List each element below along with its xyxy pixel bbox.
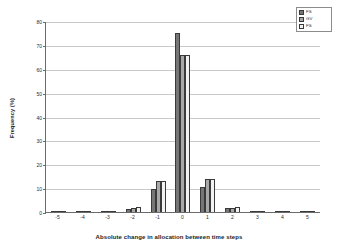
x-axis-tick-label: 5 bbox=[295, 215, 320, 220]
y-axis-tick-label: 50 bbox=[36, 91, 42, 96]
legend-item[interactable]: FS bbox=[299, 23, 330, 30]
bar-group bbox=[71, 22, 96, 212]
x-axis-tick-labels: -5-4-3-2-1012345 bbox=[45, 215, 320, 220]
bar-group bbox=[171, 22, 196, 212]
legend-swatch-icon bbox=[299, 10, 304, 15]
x-axis-tick-label: -4 bbox=[70, 215, 95, 220]
bar-group bbox=[295, 22, 320, 212]
bar-group bbox=[46, 22, 71, 212]
x-axis-tick-label: 0 bbox=[170, 215, 195, 220]
y-axis-tick bbox=[43, 213, 46, 214]
bar bbox=[86, 211, 91, 212]
legend-item-label: GV bbox=[306, 17, 312, 21]
y-axis-tick-label: 40 bbox=[36, 115, 42, 120]
x-axis-tick-label: 1 bbox=[195, 215, 220, 220]
legend-item-label: FS bbox=[306, 10, 312, 14]
y-axis-tick-label: 80 bbox=[36, 20, 42, 25]
x-axis-tick-label: 4 bbox=[270, 215, 295, 220]
bar-chart: Frequency (%) 01020304050607080 -5-4-3-2… bbox=[0, 0, 338, 252]
x-axis-title: Absolute change in allocation between ti… bbox=[0, 234, 338, 240]
bar-group bbox=[121, 22, 146, 212]
bar bbox=[260, 211, 265, 212]
y-axis-tick-label: 70 bbox=[36, 43, 42, 48]
bar bbox=[185, 55, 190, 212]
legend-item[interactable]: GV bbox=[299, 16, 330, 23]
bar bbox=[111, 211, 116, 212]
y-axis-tick-label: 10 bbox=[36, 187, 42, 192]
bar bbox=[285, 211, 290, 212]
bar bbox=[310, 211, 315, 212]
bar bbox=[136, 207, 141, 212]
plot-area: 01020304050607080 bbox=[45, 22, 320, 213]
y-axis-title: Frequency (%) bbox=[9, 98, 15, 138]
bar bbox=[161, 181, 166, 212]
bar-group bbox=[146, 22, 171, 212]
x-axis-tick-label: -1 bbox=[145, 215, 170, 220]
y-axis-tick-label: 20 bbox=[36, 163, 42, 168]
chart-legend: FSGVFS bbox=[296, 7, 332, 32]
bar-group bbox=[270, 22, 295, 212]
bar bbox=[235, 207, 240, 212]
bar-layer bbox=[46, 22, 320, 212]
x-axis-tick-label: -5 bbox=[45, 215, 70, 220]
legend-item-label: FS bbox=[306, 24, 312, 28]
y-axis-tick-label: 60 bbox=[36, 67, 42, 72]
bar-group bbox=[96, 22, 121, 212]
x-axis-tick-label: 3 bbox=[245, 215, 270, 220]
x-axis-tick-label: 2 bbox=[220, 215, 245, 220]
legend-item[interactable]: FS bbox=[299, 9, 330, 16]
bar-group bbox=[245, 22, 270, 212]
x-axis-tick-label: -3 bbox=[95, 215, 120, 220]
bar bbox=[61, 211, 66, 212]
bar-group bbox=[220, 22, 245, 212]
legend-swatch-icon bbox=[299, 17, 304, 22]
x-axis-tick-label: -2 bbox=[120, 215, 145, 220]
bar-group bbox=[195, 22, 220, 212]
y-axis-tick-label: 30 bbox=[36, 139, 42, 144]
y-axis-tick-label: 0 bbox=[39, 211, 42, 216]
bar bbox=[210, 179, 215, 212]
legend-swatch-icon bbox=[299, 24, 304, 29]
